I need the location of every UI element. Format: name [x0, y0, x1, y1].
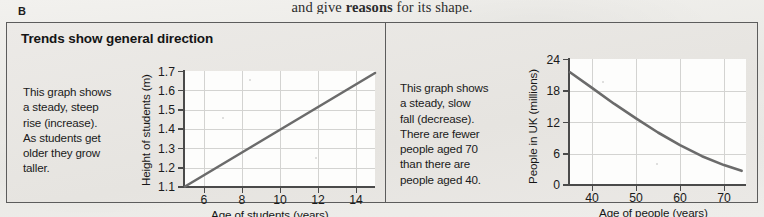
cropped-text-suffix: for its shape. [393, 0, 473, 14]
textbook-page-scan: and give reasons for its shape. B Trends… [0, 0, 764, 217]
cropped-text-bold: reasons [346, 0, 393, 14]
chart-students-height: 1.7 1.6 1.5 1.4 1.3 1.2 1.1 6 8 10 12 14 [127, 65, 377, 199]
cropped-body-text: and give reasons for its shape. [0, 0, 764, 14]
x-axis-title-right: Age of people (years) [599, 206, 708, 217]
panel-heading: Trends show general direction [21, 31, 213, 46]
chart-uk-population: 24 18 12 6 0 40 50 60 70 People in UK (m… [506, 45, 751, 199]
cropped-text-prefix: and give [292, 0, 346, 14]
figure-frame: Trends show general direction This graph… [6, 22, 758, 203]
data-line-left [127, 65, 377, 199]
data-curve-right [506, 45, 751, 199]
left-panel: Trends show general direction This graph… [7, 23, 386, 202]
right-panel: This graph shows a steady, slow fall (de… [386, 23, 757, 202]
section-letter-b: B [18, 5, 26, 17]
x-axis-title-left: Age of students (years) [211, 208, 329, 217]
